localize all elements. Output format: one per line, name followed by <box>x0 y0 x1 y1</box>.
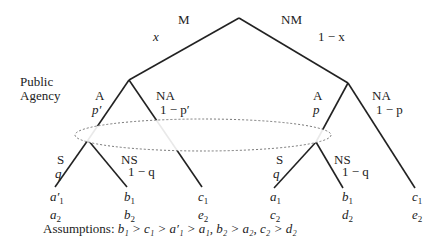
player-label-line2: Agency <box>20 89 60 103</box>
prob-1-q-left: 1 − q <box>128 165 155 179</box>
prob-q-left: q <box>55 167 62 181</box>
label-a-left: A <box>95 89 104 103</box>
payoff-6: c1e2 <box>412 190 422 226</box>
prob-1-p: 1 − p <box>376 103 403 117</box>
prob-1-p-prime: 1 − p′ <box>160 103 190 117</box>
label-s-left: S <box>57 153 64 167</box>
tree-lines <box>0 0 443 243</box>
label-na-left: NA <box>156 89 175 103</box>
prob-1-x: 1 − x <box>318 30 345 44</box>
prob-x: x <box>153 30 159 44</box>
prob-p-prime: p′ <box>92 103 101 117</box>
information-set <box>75 119 331 151</box>
assumptions: Assumptions: b₁ > c₁ > a′₁ > a₁, b₂ > a₂… <box>43 222 297 236</box>
prob-q-right: q <box>273 167 280 181</box>
label-nm: NM <box>281 13 302 27</box>
prob-1-q-right: 1 − q <box>342 165 369 179</box>
prob-p: p <box>313 103 320 117</box>
label-na-right: NA <box>372 89 391 103</box>
label-s-right: S <box>276 153 283 167</box>
game-tree-diagram: M x NM 1 − x Public Agency A p′ NA 1 − p… <box>0 0 443 243</box>
label-m: M <box>178 13 190 27</box>
payoff-5: b1d2 <box>342 190 353 226</box>
label-a-right: A <box>313 89 322 103</box>
player-label-line1: Public <box>20 75 53 89</box>
